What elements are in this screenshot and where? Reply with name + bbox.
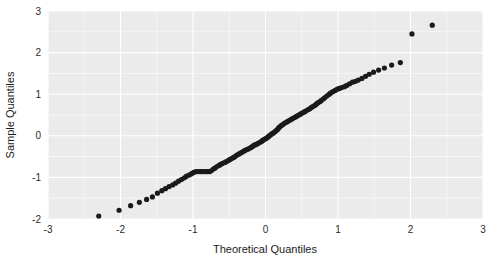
y-tick-label: -2: [32, 214, 41, 225]
data-point: [389, 62, 394, 67]
plot-canvas: -3-2-10123 -2-10123 Theoretical Quantile…: [0, 0, 498, 259]
data-point: [96, 213, 101, 218]
data-point: [371, 70, 376, 75]
data-point: [430, 23, 435, 28]
x-tick-label: -3: [44, 224, 53, 235]
data-point: [116, 208, 121, 213]
x-tick-label: 0: [263, 224, 269, 235]
y-tick-label: -1: [32, 172, 41, 183]
x-tick-label: 3: [480, 224, 486, 235]
x-axis-title: Theoretical Quantiles: [213, 243, 317, 255]
y-tick-label: 3: [35, 6, 41, 17]
data-point: [382, 65, 387, 70]
data-point: [150, 194, 155, 199]
y-tick-label: 1: [35, 89, 41, 100]
x-tick-label: -1: [189, 224, 198, 235]
data-point: [137, 200, 142, 205]
y-axis-title: Sample Quantiles: [4, 71, 16, 158]
data-point: [376, 67, 381, 72]
data-point: [398, 60, 403, 65]
data-point: [128, 203, 133, 208]
x-tick-label: 2: [408, 224, 414, 235]
x-tick-label: 1: [335, 224, 341, 235]
y-tick-label: 0: [35, 130, 41, 141]
data-point: [144, 197, 149, 202]
qq-plot-figure: -3-2-10123 -2-10123 Theoretical Quantile…: [0, 0, 498, 259]
data-point: [409, 31, 414, 36]
y-tick-label: 2: [35, 47, 41, 58]
data-point: [155, 191, 160, 196]
x-tick-label: -2: [116, 224, 125, 235]
